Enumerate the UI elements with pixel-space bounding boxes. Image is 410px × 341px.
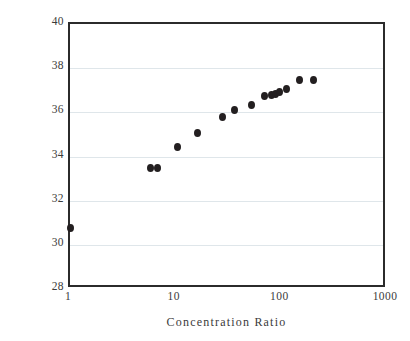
- data-point: [154, 164, 161, 172]
- data-point: [283, 85, 290, 93]
- x-axis-title: Concentration Ratio: [68, 315, 385, 330]
- x-tick-label-1: 1: [43, 291, 93, 303]
- y-tick-label-30: 30: [36, 237, 64, 249]
- y-axis-title: Coneversion Efficiency (%): [6, 0, 28, 44]
- data-point: [194, 129, 201, 137]
- y-tick-label-34: 34: [36, 149, 64, 161]
- scatter-series: [70, 24, 383, 285]
- data-point: [174, 143, 181, 151]
- gridline-y-32: [70, 201, 383, 202]
- data-point: [261, 92, 268, 100]
- data-point: [268, 91, 275, 99]
- data-point: [296, 76, 303, 84]
- x-tick-label-100: 100: [254, 291, 304, 303]
- y-axis-tick-labels: 28303234363840: [36, 0, 64, 341]
- x-tick-label-10: 10: [149, 291, 199, 303]
- gridline-y-30: [70, 245, 383, 246]
- y-tick-label-36: 36: [36, 104, 64, 116]
- data-point: [248, 101, 255, 109]
- x-axis-tick-labels: 1101001000: [0, 291, 410, 307]
- data-point: [272, 90, 279, 98]
- data-point: [67, 224, 74, 232]
- y-tick-label-32: 32: [36, 193, 64, 205]
- y-tick-label-38: 38: [36, 60, 64, 72]
- y-tick-label-40: 40: [36, 16, 64, 28]
- chart-figure: Coneversion Efficiency (%) 2830323436384…: [0, 0, 410, 341]
- gridline-y-38: [70, 68, 383, 69]
- data-point: [147, 164, 154, 172]
- data-point: [276, 88, 283, 96]
- x-tick-label-1000: 1000: [360, 291, 410, 303]
- gridlines: [70, 24, 383, 285]
- gridline-y-36: [70, 112, 383, 113]
- gridline-y-34: [70, 157, 383, 158]
- data-point: [310, 76, 317, 84]
- data-point: [231, 106, 238, 114]
- data-point: [219, 113, 226, 121]
- plot-area: [68, 22, 385, 287]
